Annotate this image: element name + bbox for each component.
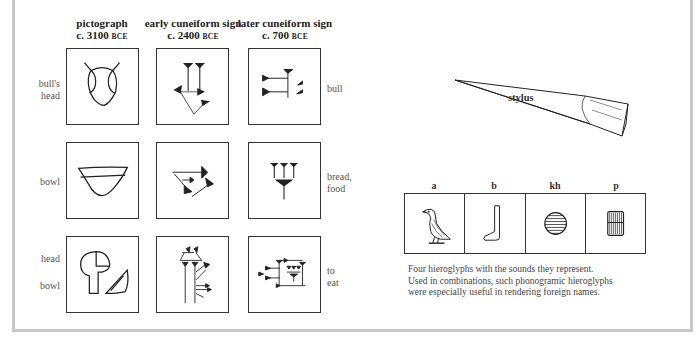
foot-icon xyxy=(465,194,524,253)
row-label-bulls-head: bull'shead xyxy=(10,78,60,102)
placenta-disc-icon xyxy=(526,194,585,253)
early-cuneiform-bowl-icon xyxy=(157,143,228,218)
pictograph-bulls-head xyxy=(66,48,139,125)
row-label-bowl-2: bowl xyxy=(10,280,60,292)
sound-label-b: b xyxy=(464,180,524,191)
pictograph-head-bowl xyxy=(66,236,139,313)
stool-mat-icon xyxy=(586,194,645,253)
sound-label-p: p xyxy=(586,180,646,191)
stylus-illustration-icon xyxy=(450,66,680,156)
row-meaning-bread-food: bread,food xyxy=(327,171,352,195)
hieroglyph-cell-b xyxy=(465,194,525,253)
hieroglyph-strip xyxy=(404,193,646,254)
hieroglyph-cell-a xyxy=(405,194,465,253)
row-label-bowl: bowl xyxy=(10,176,60,188)
later-cuneiform-eat xyxy=(248,236,321,313)
later-cuneiform-bull-icon xyxy=(249,49,320,124)
column-date: c. 700 BCE xyxy=(224,29,346,43)
early-cuneiform-eat xyxy=(156,236,229,313)
hieroglyph-cell-kh xyxy=(526,194,586,253)
early-cuneiform-bull-icon xyxy=(157,49,228,124)
bulls-head-pictograph-icon xyxy=(67,49,138,124)
head-bowl-pictograph-icon xyxy=(67,237,138,312)
later-cuneiform-eat-icon xyxy=(249,237,320,312)
stylus-label: stylus xyxy=(508,92,534,103)
pictograph-bowl xyxy=(66,142,139,219)
sound-label-a: a xyxy=(404,180,464,191)
column-header-later-cuneiform: later cuneiform sign c. 700 BCE xyxy=(224,17,346,43)
hieroglyph-cell-p xyxy=(586,194,645,253)
later-cuneiform-bull xyxy=(248,48,321,125)
row-meaning-bull: bull xyxy=(327,83,343,95)
row-meaning-to-eat: toeat xyxy=(327,265,339,289)
vulture-icon xyxy=(405,194,464,253)
early-cuneiform-bull xyxy=(156,48,229,125)
hieroglyph-caption: Four hieroglyphs with the sounds they re… xyxy=(408,264,678,299)
column-title: later cuneiform sign xyxy=(224,17,346,29)
later-cuneiform-bread xyxy=(248,142,321,219)
bowl-pictograph-icon xyxy=(67,143,138,218)
early-cuneiform-eat-icon xyxy=(157,237,228,312)
sound-label-kh: kh xyxy=(525,180,585,191)
later-cuneiform-bread-icon xyxy=(249,143,320,218)
early-cuneiform-bowl xyxy=(156,142,229,219)
row-label-head: head xyxy=(10,253,60,265)
